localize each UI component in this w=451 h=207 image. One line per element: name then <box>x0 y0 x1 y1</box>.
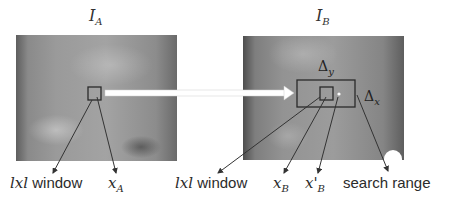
math-sub: B <box>281 183 288 194</box>
arrow-x-a <box>97 97 116 173</box>
label-x-prime-b: x'B <box>305 174 325 194</box>
arrow-x-prime-b <box>318 97 338 173</box>
window-box-a <box>88 87 101 100</box>
window-size: lxl <box>175 174 193 192</box>
label-x-a: xA <box>108 174 124 194</box>
window-size: lxl <box>10 174 28 192</box>
label-right-window: lxl window <box>175 174 247 192</box>
window-text: window <box>28 174 82 191</box>
label-search-range: search range <box>343 174 431 191</box>
arrow-search-range <box>357 95 388 171</box>
x-prime-b-point <box>337 92 340 95</box>
transfer-arrow <box>105 86 294 100</box>
label-x-b: xB <box>273 174 289 194</box>
arrow-left-window <box>53 100 92 173</box>
search-range-box <box>297 80 355 107</box>
window-text: window <box>193 174 247 191</box>
window-box-b <box>320 87 333 100</box>
math-sub: A <box>116 183 123 194</box>
math-base: x' <box>305 174 318 192</box>
label-left-window: lxl window <box>10 174 82 192</box>
math-sub: B <box>318 183 325 194</box>
